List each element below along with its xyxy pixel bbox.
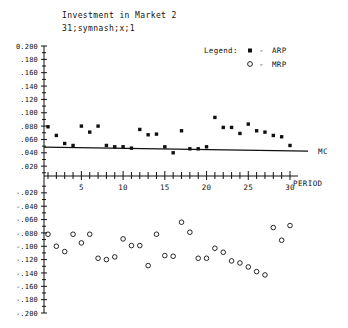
- y-axis-tick-label: -.120: [16, 256, 38, 264]
- data-point-arp: [46, 125, 49, 128]
- x-axis-tick-label: 5: [79, 183, 84, 192]
- data-point-mrp: [121, 237, 126, 242]
- y-axis-tick-label: -.200: [16, 310, 38, 318]
- chart-title: Investment in Market 2: [62, 11, 177, 20]
- data-point-mrp: [271, 225, 276, 230]
- data-point-arp: [113, 145, 116, 148]
- chart-annotations: MC: [318, 147, 328, 156]
- legend-dash-mrp: -: [259, 60, 264, 69]
- y-axis-tick-label: .160: [20, 69, 38, 77]
- data-point-arp: [188, 147, 191, 150]
- data-point-arp: [171, 151, 174, 154]
- data-point-mrp: [71, 232, 76, 237]
- mc-line-group: [44, 147, 308, 151]
- data-point-arp: [230, 126, 233, 129]
- data-point-mrp: [254, 269, 259, 274]
- data-point-mrp: [196, 256, 201, 261]
- data-point-mrp: [204, 256, 209, 261]
- x-axis-tick-label: 25: [243, 183, 253, 192]
- data-point-mrp: [87, 232, 92, 237]
- data-point-arp: [197, 147, 200, 150]
- data-point-arp: [255, 129, 258, 132]
- y-axis-tick-label: .140: [20, 83, 38, 91]
- data-point-arp: [88, 130, 91, 133]
- data-point-arp: [247, 122, 250, 125]
- legend-label-arp: ARP: [272, 46, 287, 55]
- data-point-arp: [238, 132, 241, 135]
- data-point-arp: [163, 145, 166, 148]
- y-axis-tick-label: -.040: [16, 203, 38, 211]
- data-point-arp: [71, 144, 74, 147]
- data-point-arp: [80, 124, 83, 127]
- data-point-arp: [55, 134, 58, 137]
- data-point-arp: [263, 130, 266, 133]
- series-mrp-points: [46, 220, 293, 277]
- legend: Legend: - ARP - MRP: [204, 46, 287, 69]
- data-point-arp: [121, 145, 124, 148]
- data-point-mrp: [54, 244, 59, 249]
- y-axis-tick-label: .100: [20, 109, 38, 117]
- data-point-mrp: [279, 238, 284, 243]
- y-axis-tick-label: .020: [20, 163, 38, 171]
- x-axis-tick-label: 10: [118, 183, 128, 192]
- data-point-mrp: [213, 246, 218, 251]
- data-point-mrp: [179, 220, 184, 225]
- data-point-arp: [63, 142, 66, 145]
- data-point-mrp: [96, 256, 101, 261]
- legend-marker-arp-icon: [248, 49, 252, 53]
- chart-container: Investment in Market 2 31;symnash;x;1 Le…: [0, 0, 348, 328]
- x-axis-tick-label: 15: [160, 183, 170, 192]
- data-point-mrp: [246, 265, 251, 270]
- data-point-arp: [105, 144, 108, 147]
- y-axis-tick-label: -.160: [16, 283, 38, 291]
- x-axis-tick-label: 20: [202, 183, 212, 192]
- data-point-mrp: [79, 241, 84, 246]
- data-point-mrp: [171, 254, 176, 259]
- y-axis-tick-label: .040: [20, 149, 38, 157]
- y-axis: 0.200.180.160.140.120.100.080.060.040.02…: [16, 43, 47, 318]
- data-point-mrp: [188, 230, 193, 235]
- data-point-arp: [130, 146, 133, 149]
- y-axis-tick-label: -.060: [16, 216, 38, 224]
- data-point-arp: [146, 133, 149, 136]
- data-point-mrp: [288, 223, 293, 228]
- data-point-mrp: [238, 261, 243, 266]
- data-point-mrp: [229, 259, 234, 264]
- data-point-arp: [155, 132, 158, 135]
- data-point-mrp: [146, 263, 151, 268]
- data-point-mrp: [221, 250, 226, 255]
- data-point-mrp: [129, 243, 134, 248]
- data-point-mrp: [163, 253, 168, 258]
- chart-subtitle: 31;symnash;x;1: [62, 24, 135, 33]
- x-axis-label: PERIOD: [293, 179, 323, 188]
- data-point-arp: [138, 128, 141, 131]
- y-axis-tick-label: .080: [20, 123, 38, 131]
- data-point-arp: [96, 124, 99, 127]
- y-axis-tick-label: -.100: [16, 243, 38, 251]
- y-axis-tick-label: .060: [20, 136, 38, 144]
- data-point-arp: [205, 145, 208, 148]
- data-point-arp: [272, 134, 275, 137]
- x-axis: 51015202530: [44, 171, 298, 192]
- y-axis-tick-label: 0.200: [16, 43, 38, 51]
- y-axis-tick-label: -.080: [16, 230, 38, 238]
- data-point-arp: [288, 144, 291, 147]
- data-point-mrp: [104, 257, 109, 262]
- annotation-mc-label: MC: [318, 147, 328, 156]
- data-point-arp: [180, 129, 183, 132]
- data-point-arp: [213, 116, 216, 119]
- y-axis-tick-label: .120: [20, 96, 38, 104]
- data-point-mrp: [137, 243, 142, 248]
- data-point-mrp: [112, 255, 117, 260]
- data-point-arp: [222, 126, 225, 129]
- legend-title: Legend:: [204, 46, 238, 55]
- legend-dash-arp: -: [259, 46, 264, 55]
- data-point-mrp: [154, 232, 159, 237]
- legend-marker-mrp-icon: [248, 62, 253, 67]
- data-point-mrp: [263, 273, 268, 278]
- y-axis-tick-label: -.140: [16, 270, 38, 278]
- data-point-mrp: [62, 249, 67, 254]
- data-point-arp: [280, 135, 283, 138]
- y-axis-tick-label: -.020: [16, 189, 38, 197]
- mc-line: [44, 147, 308, 151]
